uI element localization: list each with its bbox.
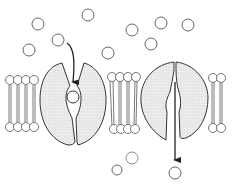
lipid-segment-right: [209, 74, 226, 133]
bound-solute-molecule: [67, 91, 79, 103]
diagram-canvas: Carrier protein transport across a lipid…: [0, 0, 234, 193]
lipid-segment-middle: [108, 73, 141, 134]
membrane-transport-diagram: [0, 0, 234, 193]
lipid-segment-left: [6, 76, 39, 132]
solute-molecules-inside: [112, 152, 181, 179]
solute-molecules-outside: [23, 9, 194, 59]
curved-arrow-in-icon: [67, 43, 74, 82]
